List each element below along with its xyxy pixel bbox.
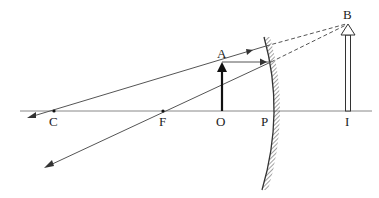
- point-F: [161, 109, 164, 112]
- image-arrow-shaft: [346, 35, 351, 111]
- label-O: O: [216, 114, 225, 129]
- virtual-ray-2: [271, 25, 346, 62]
- label-C: C: [49, 114, 58, 129]
- arrowhead-icon: [27, 112, 36, 118]
- ray-through-C: [30, 46, 266, 117]
- label-A: A: [217, 46, 227, 61]
- label-F: F: [159, 114, 166, 129]
- object-arrowhead-icon: [217, 62, 227, 72]
- point-C: [52, 109, 55, 112]
- label-P: P: [261, 114, 268, 129]
- image-arrowhead-icon: [341, 24, 355, 35]
- arrowhead-icon: [44, 160, 54, 168]
- label-I: I: [345, 114, 349, 129]
- label-B: B: [343, 7, 352, 22]
- ray-diagram: C F O P I A B: [0, 0, 379, 198]
- arrowhead-icon: [246, 49, 253, 55]
- virtual-ray-1: [266, 24, 346, 46]
